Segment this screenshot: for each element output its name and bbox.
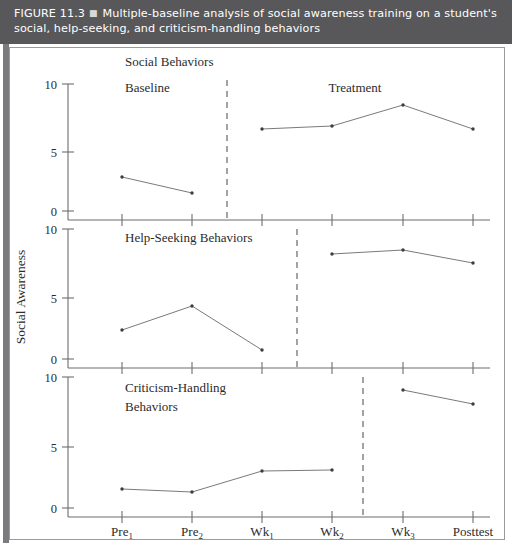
figure-caption-line-2: social, help-seeking, and criticism-hand… [14, 21, 498, 36]
figure-caption-text-1: Multiple-baseline analysis of social awa… [103, 7, 497, 20]
figure-caption-line-1: FIGURE 11.3■Multiple-baseline analysis o… [14, 6, 498, 21]
bullet-icon: ■ [89, 6, 98, 21]
figure-caption-bar: FIGURE 11.3■Multiple-baseline analysis o… [0, 0, 512, 44]
figure-number: FIGURE 11.3 [14, 7, 85, 20]
plot-frame [9, 47, 505, 540]
figure-container: FIGURE 11.3■Multiple-baseline analysis o… [0, 0, 512, 547]
